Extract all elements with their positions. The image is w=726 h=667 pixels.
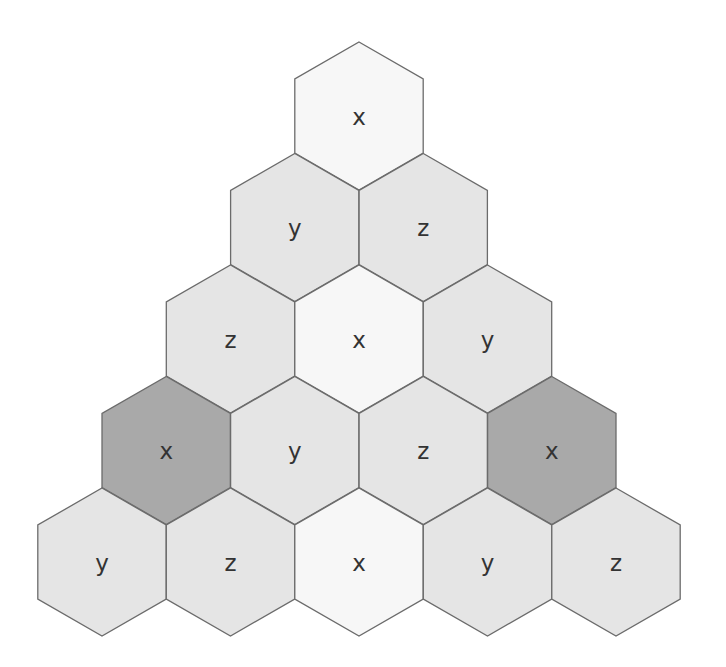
hex-label: x bbox=[545, 438, 559, 464]
hex-label: x bbox=[352, 550, 366, 576]
hex-label: y bbox=[288, 215, 302, 241]
hex-label: z bbox=[224, 327, 236, 353]
hex-label: x bbox=[352, 327, 366, 353]
hex-label: x bbox=[159, 438, 173, 464]
hex-label: y bbox=[481, 550, 495, 576]
hex-label: y bbox=[288, 438, 302, 464]
hex-label: x bbox=[352, 104, 366, 130]
hex-label: z bbox=[417, 215, 429, 241]
hex-label: z bbox=[417, 438, 429, 464]
hex-label: z bbox=[224, 550, 236, 576]
hex-label: y bbox=[95, 550, 109, 576]
hex-pyramid-diagram: xyzzxyxyzxyzxyz bbox=[0, 0, 726, 667]
hex-label: y bbox=[481, 327, 495, 353]
hex-label: z bbox=[610, 550, 622, 576]
